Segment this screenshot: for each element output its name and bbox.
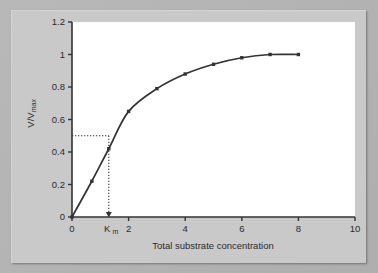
- y-tick-label: 0: [60, 211, 65, 222]
- x-tick-label: 6: [239, 223, 244, 234]
- data-point-marker: [107, 147, 110, 150]
- y-axis-tick-labels: 00.20.40.60.811.2: [52, 16, 65, 222]
- y-tick-label: 0.8: [52, 81, 65, 92]
- y-axis-title: V/V: [25, 112, 36, 128]
- data-point-marker: [184, 72, 187, 75]
- data-point-marker: [127, 110, 130, 113]
- x-tick-label: 10: [350, 223, 361, 234]
- km-axis-label: K: [104, 223, 111, 234]
- data-point-marker: [90, 180, 93, 183]
- y-tick-label: 1.2: [52, 16, 65, 27]
- data-point-marker: [155, 87, 158, 90]
- data-point-marker: [297, 53, 300, 56]
- data-point-marker: [268, 53, 271, 56]
- x-tick-label: 8: [296, 223, 301, 234]
- plot-area: [72, 22, 355, 217]
- y-tick-label: 0.2: [52, 179, 65, 190]
- data-point-marker: [240, 56, 243, 59]
- data-point-marker: [70, 215, 73, 218]
- figure-root: 00.20.40.60.811.2 0246810 K m Total subs…: [0, 0, 378, 273]
- km-axis-label-subscript: m: [113, 228, 119, 235]
- y-tick-label: 0.4: [52, 146, 65, 157]
- chart-canvas: 00.20.40.60.811.2 0246810 K m Total subs…: [0, 0, 378, 273]
- y-axis-title-subscript: max: [30, 99, 37, 113]
- x-tick-label: 4: [183, 223, 188, 234]
- x-tick-label: 0: [69, 223, 74, 234]
- y-tick-label: 1: [60, 49, 65, 60]
- x-tick-label: 2: [126, 223, 131, 234]
- y-tick-label: 0.6: [52, 114, 65, 125]
- data-point-marker: [212, 63, 215, 66]
- x-axis-title: Total substrate concentration: [152, 240, 273, 251]
- y-axis-title-group: V/V max: [25, 99, 37, 128]
